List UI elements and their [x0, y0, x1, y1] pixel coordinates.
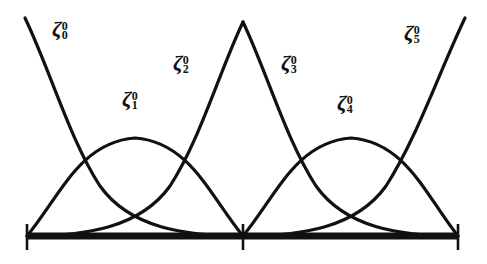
- zeta-scripts: 03: [291, 54, 297, 77]
- axis-group: [27, 224, 458, 250]
- basis-function-figure: ζ00 ζ01 ζ02 ζ03 ζ04 ζ05: [0, 0, 487, 264]
- curve-zeta-5: [243, 18, 465, 236]
- label-zeta-4: ζ04: [337, 92, 353, 117]
- zeta-glyph: ζ: [52, 16, 62, 41]
- subscript: 0: [62, 30, 68, 41]
- label-zeta-0: ζ00: [52, 18, 68, 43]
- label-zeta-3: ζ03: [281, 52, 297, 77]
- zeta-scripts: 00: [62, 20, 68, 43]
- zeta-glyph: ζ: [173, 50, 183, 75]
- subscript: 4: [347, 104, 353, 115]
- subscript: 3: [291, 64, 297, 75]
- curve-group: [25, 18, 465, 236]
- subscript: 1: [132, 100, 138, 111]
- curve-zeta-1: [27, 138, 243, 236]
- subscript: 2: [183, 64, 189, 75]
- label-zeta-1: ζ01: [122, 88, 138, 113]
- zeta-scripts: 04: [347, 94, 353, 117]
- subscript: 5: [414, 34, 420, 45]
- curve-zeta-4: [243, 138, 458, 236]
- label-zeta-2: ζ02: [173, 52, 189, 77]
- curve-zeta-3: [243, 22, 458, 236]
- label-zeta-5: ζ05: [404, 22, 420, 47]
- zeta-scripts: 05: [414, 24, 420, 47]
- curve-zeta-2: [27, 22, 243, 236]
- zeta-glyph: ζ: [281, 50, 291, 75]
- zeta-scripts: 01: [132, 90, 138, 113]
- zeta-glyph: ζ: [404, 20, 414, 45]
- zeta-glyph: ζ: [337, 90, 347, 115]
- curve-zeta-0: [25, 18, 243, 236]
- zeta-scripts: 02: [183, 54, 189, 77]
- zeta-glyph: ζ: [122, 86, 132, 111]
